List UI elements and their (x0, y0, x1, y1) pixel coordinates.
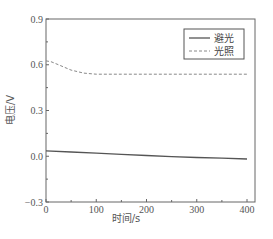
legend-label-light: 光照 (214, 45, 234, 57)
line-chart: −0.30.00.30.60.9 0100200300400 避光 光照 时间/… (0, 0, 273, 239)
x-tick-label: 100 (89, 204, 104, 215)
y-tick-label: −0.3 (25, 197, 43, 208)
x-axis: 0100200300400 (44, 199, 255, 215)
series-line (46, 151, 247, 159)
series-layer (46, 61, 247, 159)
y-axis: −0.30.00.30.60.9 (25, 14, 49, 208)
legend-label-dark: 避光 (214, 32, 234, 44)
x-tick-label: 0 (44, 204, 49, 215)
x-tick-label: 300 (189, 204, 204, 215)
y-tick-label: 0.9 (31, 14, 44, 25)
legend: 避光 光照 (184, 29, 244, 59)
x-axis-label: 时间/s (112, 212, 141, 224)
y-axis-label: 电压/V (4, 95, 16, 125)
y-tick-label: 0.0 (31, 151, 44, 162)
series-line (46, 61, 247, 74)
y-tick-label: 0.3 (31, 105, 44, 116)
x-tick-label: 200 (139, 204, 154, 215)
x-tick-label: 400 (240, 204, 255, 215)
y-tick-label: 0.6 (31, 59, 44, 70)
